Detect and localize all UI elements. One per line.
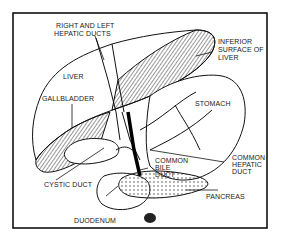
- label-inferior-1: INFERIOR: [218, 38, 252, 45]
- label-liver: LIVER: [63, 73, 84, 80]
- label-pancreas: PANCREAS: [206, 193, 245, 200]
- label-common-hepatic-1: COMMON: [232, 154, 265, 161]
- label-inferior-3: LIVER: [218, 54, 239, 61]
- label-gallbladder: GALLBLADDER: [42, 95, 94, 102]
- label-common-hepatic-2: HEPATIC: [232, 161, 262, 168]
- label-hepatic-ducts-1: RIGHT AND LEFT: [56, 22, 115, 29]
- label-inferior-2: SURFACE OF: [218, 46, 264, 53]
- label-common-bile-3: DUCT: [155, 171, 175, 178]
- duodenum-end: [144, 213, 156, 223]
- common-bile-duct: [128, 112, 140, 176]
- label-duodenum: DUODENUM: [74, 217, 116, 224]
- label-common-hepatic-3: DUCT: [232, 168, 252, 175]
- label-cystic-duct: CYSTIC DUCT: [44, 181, 93, 188]
- label-stomach: STOMACH: [195, 100, 231, 107]
- anatomy-diagram: RIGHT AND LEFT HEPATIC DUCTS INFERIOR SU…: [0, 0, 284, 246]
- label-hepatic-ducts-2: HEPATIC DUCTS: [54, 30, 111, 37]
- label-common-bile-2: BILE: [155, 164, 171, 171]
- label-common-bile-1: COMMON: [155, 157, 188, 164]
